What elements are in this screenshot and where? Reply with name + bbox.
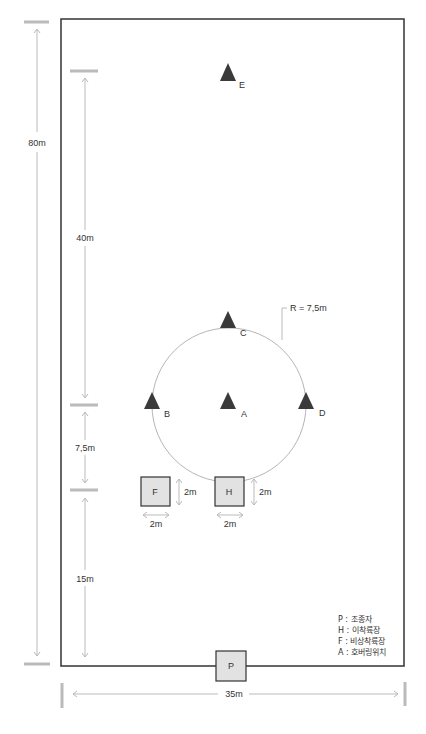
dimension-label-35m: 35m <box>225 689 243 699</box>
svg-text:A: A <box>241 409 247 419</box>
dimension-total-width: 35m <box>62 682 405 708</box>
legend: P : 조종자 H : 이착륙장 F : 비상착륙장 A : 호버링위치 <box>338 615 386 657</box>
legend-item-p: P : 조종자 <box>338 615 373 624</box>
pad-f: F 2m 2m <box>141 477 197 529</box>
svg-text:D: D <box>319 408 326 418</box>
dimension-label-7-5m: 7,5m <box>75 443 95 453</box>
svg-text:2m: 2m <box>150 519 163 529</box>
svg-text:E: E <box>239 80 245 90</box>
svg-text:H: H <box>226 487 233 497</box>
marker-d: D <box>298 392 326 418</box>
triangle-marker-icon <box>220 392 236 409</box>
marker-a: A <box>220 392 247 419</box>
marker-e: E <box>220 63 245 90</box>
hovering-course-diagram: 80m 40m 7,5m 15m 35m R = 7,5m E C <box>0 0 426 734</box>
svg-text:C: C <box>240 328 247 338</box>
triangle-marker-icon <box>220 311 236 328</box>
radius-label: R = 7,5m <box>290 303 327 313</box>
dimension-label-80m: 80m <box>28 138 46 148</box>
pad-p: P <box>216 651 246 681</box>
dimension-segments: 40m 7,5m 15m <box>70 71 98 657</box>
svg-text:F: F <box>152 487 158 497</box>
pad-h: H 2m 2m <box>215 477 272 529</box>
legend-item-f: F : 비상착륙장 <box>338 636 386 646</box>
dimension-label-15m: 15m <box>76 574 94 584</box>
triangle-marker-icon <box>298 392 314 409</box>
marker-c: C <box>220 311 247 338</box>
svg-text:2m: 2m <box>184 487 197 497</box>
marker-b: B <box>144 392 170 419</box>
svg-text:2m: 2m <box>224 519 237 529</box>
radius-callout: R = 7,5m <box>282 303 327 340</box>
legend-item-a: A : 호버링위치 <box>338 647 386 657</box>
dimension-label-40m: 40m <box>76 233 94 243</box>
triangle-marker-icon <box>220 63 236 81</box>
svg-text:P: P <box>228 661 234 671</box>
triangle-marker-icon <box>144 392 160 409</box>
svg-text:B: B <box>164 409 170 419</box>
svg-text:2m: 2m <box>259 487 272 497</box>
legend-item-h: H : 이착륙장 <box>338 625 381 635</box>
dimension-total-height: 80m <box>22 22 52 664</box>
field-boundary <box>61 19 404 666</box>
